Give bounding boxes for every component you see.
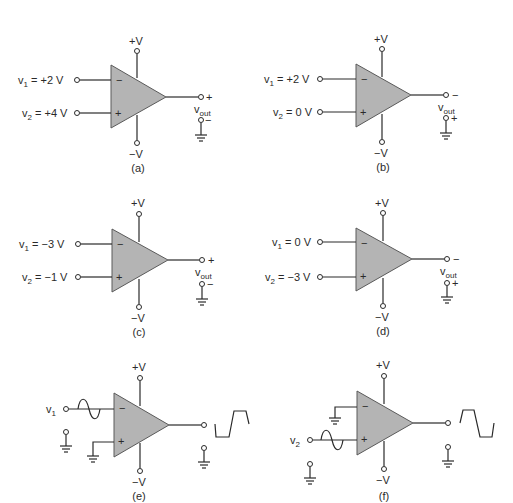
v1-label: v1 = 0 V (272, 236, 312, 251)
v2-label: v2 = 0 V (273, 106, 313, 121)
svg-text:−: − (117, 238, 123, 250)
svg-text:−V: −V (376, 474, 390, 486)
square-wave-icon (460, 410, 494, 437)
svg-text:−: − (362, 400, 368, 412)
svg-text:−: − (207, 278, 213, 290)
v2-label: v2 = −1 V (22, 271, 68, 286)
svg-text:+: + (116, 271, 122, 283)
svg-text:+: + (360, 106, 366, 118)
opamp-circuit-f: − + +V −V v2 (f) (290, 359, 494, 502)
svg-text:−: − (452, 89, 458, 101)
svg-text:−: − (361, 73, 367, 85)
svg-text:−V: −V (375, 311, 389, 323)
svg-text:+: + (206, 91, 212, 103)
svg-text:+V: +V (374, 33, 388, 45)
svg-text:−: − (361, 237, 367, 249)
caption-a: (a) (131, 162, 144, 174)
svg-text:−V: −V (131, 312, 145, 324)
v1-label: v1 = +2 V (264, 73, 310, 88)
svg-text:−V: −V (374, 147, 388, 159)
v2-label: v2 = −3 V (265, 271, 311, 286)
opamp-circuit-b: − + +V −V v1 = +2 V v2 = 0 V − vout + (b… (264, 33, 458, 173)
caption-f: (f) (379, 490, 389, 502)
caption-c: (c) (133, 326, 146, 338)
opamp-circuit-e: − + +V −V v1 (e) (46, 361, 249, 502)
svg-text:+V: +V (375, 197, 389, 209)
v2-label: v2 (290, 434, 301, 449)
svg-text:−: − (119, 402, 125, 414)
opamp-circuit-a: − + +V −V v1 = +2 V v2 = +4 V + vout − (… (18, 35, 212, 174)
svg-text:−: − (205, 114, 211, 126)
svg-text:+V: +V (376, 359, 390, 371)
caption-e: (e) (132, 490, 145, 502)
svg-text:+V: +V (131, 197, 145, 209)
v2-label: v2 = +4 V (22, 107, 68, 122)
svg-text:−V: −V (132, 476, 146, 488)
svg-text:+: + (452, 277, 458, 289)
svg-text:+: + (118, 435, 124, 447)
v1-label: v1 (46, 403, 57, 418)
caption-b: (b) (376, 161, 389, 173)
opamp-circuit-d: − + +V −V v1 = 0 V v2 = −3 V − vout + (d… (265, 197, 459, 337)
svg-text:+V: +V (132, 361, 146, 373)
v1-label: v1 = +2 V (18, 74, 64, 89)
svg-text:+: + (451, 112, 457, 124)
supply-negative-label: −V (129, 148, 143, 160)
v1-label: v1 = −3 V (19, 238, 65, 253)
svg-text:−: − (453, 253, 459, 265)
opamp-circuit-c: − + +V −V v1 = −3 V v2 = −1 V + vout − (… (19, 197, 214, 338)
svg-text:+: + (360, 270, 366, 282)
caption-d: (d) (376, 325, 389, 337)
supply-positive-label: +V (129, 35, 143, 47)
inverting-sign: − (116, 74, 122, 86)
svg-text:+: + (361, 433, 367, 445)
noninverting-sign: + (115, 107, 121, 119)
square-wave-icon (215, 411, 249, 437)
svg-text:+: + (208, 254, 214, 266)
